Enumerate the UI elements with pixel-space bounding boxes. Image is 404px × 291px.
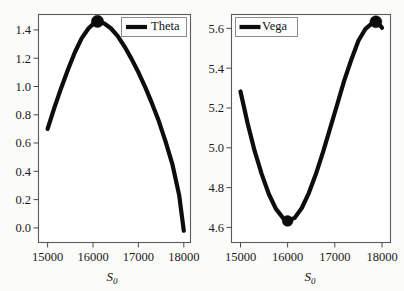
y-tick-label: 0.4	[15, 165, 31, 179]
x-axis-ticks	[48, 243, 184, 248]
x-tick-label: 17000	[319, 250, 350, 264]
y-tick-label: 1.4	[15, 23, 31, 37]
chart-panel-theta: 1.4 1.2 1.0 0.8 0.6 0.4 0.2 0.0 15000 16…	[0, 0, 202, 291]
y-axis-ticks	[227, 28, 232, 227]
x-tick-label: 16000	[272, 250, 303, 264]
x-axis-title-subscript: 0	[311, 276, 316, 286]
figure-container: 1.4 1.2 1.0 0.8 0.6 0.4 0.2 0.0 15000 16…	[0, 0, 404, 291]
y-tick-label: 5.6	[208, 22, 224, 36]
y-tick-label: 4.8	[208, 181, 224, 195]
maximum-marker	[370, 16, 382, 28]
y-tick-label: 5.4	[208, 62, 224, 76]
y-tick-label: 1.2	[15, 52, 31, 66]
y-tick-label: 5.2	[208, 101, 224, 115]
maximum-marker	[91, 15, 103, 27]
x-tick-label: 15000	[225, 250, 256, 264]
chart-panel-vega: 5.6 5.4 5.2 5.0 4.8 4.6 15000 16000 1700…	[202, 0, 404, 291]
vega-plot-svg: 5.6 5.4 5.2 5.0 4.8 4.6 15000 16000 1700…	[202, 0, 404, 291]
y-tick-label: 0.0	[15, 221, 31, 235]
theta-plot-svg: 1.4 1.2 1.0 0.8 0.6 0.4 0.2 0.0 15000 16…	[0, 0, 202, 291]
y-tick-label: 1.0	[15, 80, 31, 94]
legend: Vega	[236, 18, 298, 37]
legend: Theta	[122, 18, 187, 37]
minimum-marker	[282, 216, 293, 227]
x-axis-title-subscript: 0	[113, 276, 118, 286]
x-tick-label: 18000	[366, 250, 397, 264]
plot-frame	[39, 15, 191, 243]
y-tick-label: 4.6	[208, 221, 224, 235]
y-axis-ticks	[34, 30, 39, 228]
x-axis-ticks	[241, 243, 383, 248]
x-tick-label: 17000	[123, 250, 154, 264]
legend-label-theta: Theta	[151, 19, 180, 33]
x-tick-label: 18000	[168, 250, 199, 264]
y-tick-label: 5.0	[208, 141, 224, 155]
x-tick-label: 15000	[32, 250, 63, 264]
plot-frame	[232, 15, 391, 243]
y-tick-label: 0.2	[15, 193, 31, 207]
y-tick-label: 0.6	[15, 136, 31, 150]
x-axis-title: S0	[305, 269, 317, 286]
y-tick-label: 0.8	[15, 108, 31, 122]
legend-label-vega: Vega	[262, 19, 287, 33]
x-tick-label: 16000	[77, 250, 108, 264]
x-axis-title: S0	[107, 269, 119, 286]
